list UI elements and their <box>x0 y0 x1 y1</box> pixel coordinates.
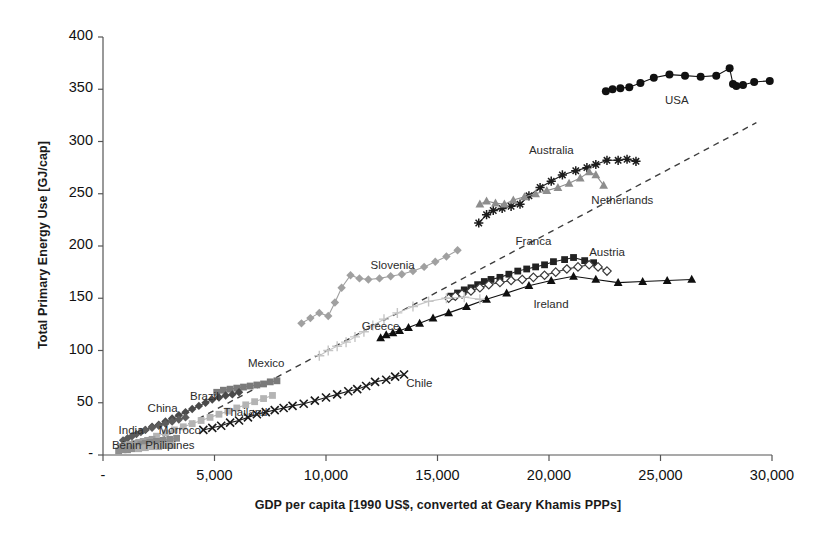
data-point <box>323 346 333 356</box>
data-point <box>240 384 247 391</box>
x-tick-label: 10,000 <box>281 467 371 483</box>
y-tick-label: 50 <box>41 393 93 409</box>
series-annotation: Philipines <box>145 439 194 451</box>
data-point <box>331 298 339 306</box>
data-point <box>571 166 580 175</box>
y-tick-label: - <box>41 445 93 461</box>
data-point <box>766 77 774 85</box>
data-point <box>247 383 254 390</box>
data-point <box>603 267 611 275</box>
data-point <box>650 74 658 82</box>
data-point <box>355 274 363 282</box>
x-tick-label: 5,000 <box>170 467 260 483</box>
data-point <box>362 382 370 390</box>
x-axis-title: GDP per capita [1990 US$, converted at G… <box>103 498 773 512</box>
data-point <box>364 275 372 283</box>
data-point <box>687 275 696 283</box>
series-annotation: India <box>119 424 144 436</box>
data-point <box>344 387 352 395</box>
y-tick-label: 150 <box>41 288 93 304</box>
y-tick-label: 100 <box>41 341 93 357</box>
data-point <box>574 263 582 271</box>
data-point <box>614 156 623 165</box>
data-point <box>732 82 740 90</box>
data-point <box>398 270 406 278</box>
data-point <box>558 170 567 179</box>
data-point <box>269 392 276 399</box>
series-annotation: Ireland <box>533 298 568 310</box>
data-point <box>570 254 577 261</box>
data-point <box>563 265 571 273</box>
data-point <box>532 264 539 271</box>
y-tick-label: 350 <box>41 79 93 95</box>
data-point <box>547 177 556 186</box>
series-annotation: Mexico <box>248 357 284 369</box>
x-tick-label: 15,000 <box>393 467 483 483</box>
data-point <box>551 268 559 276</box>
data-point <box>267 378 274 385</box>
data-point <box>665 71 673 79</box>
x-tick-label: - <box>58 467 148 483</box>
data-point <box>260 395 267 402</box>
data-point <box>442 252 450 260</box>
data-point <box>217 422 225 430</box>
data-point <box>541 261 548 268</box>
data-point <box>207 414 214 421</box>
data-point <box>431 257 439 265</box>
data-point <box>337 284 345 292</box>
series-annotation: Brazil <box>190 390 219 402</box>
data-point <box>453 246 461 254</box>
data-point <box>631 157 640 166</box>
data-point <box>739 81 747 89</box>
y-tick-label: 200 <box>41 236 93 252</box>
series-annotation: China <box>148 402 178 414</box>
data-point <box>253 382 260 389</box>
data-point <box>260 381 267 388</box>
series-annotation: Australia <box>529 144 574 156</box>
data-point <box>482 196 491 204</box>
data-point <box>181 413 189 421</box>
data-point <box>750 78 758 86</box>
chart-figure: Total Primary Energy Use [GJ/cap] GDP pe… <box>0 0 828 544</box>
data-point <box>324 312 332 320</box>
data-point <box>712 72 720 80</box>
data-point <box>415 319 424 327</box>
data-point <box>332 341 342 351</box>
data-point <box>489 206 498 215</box>
data-point <box>540 271 548 279</box>
data-point <box>391 373 399 381</box>
data-point <box>208 424 216 432</box>
series-annotation: Morroco <box>159 424 201 436</box>
data-point <box>333 390 341 398</box>
data-point <box>591 160 600 169</box>
data-point <box>616 84 624 92</box>
data-point <box>561 256 568 263</box>
series-annotation: Chile <box>406 377 432 389</box>
data-point <box>341 337 351 347</box>
data-point <box>726 64 734 72</box>
data-point <box>271 406 279 414</box>
y-tick-label: 400 <box>41 27 93 43</box>
data-point <box>565 179 574 187</box>
data-point <box>314 351 324 361</box>
series-annotation: Greece <box>362 320 400 332</box>
series-annotation: USA <box>665 94 689 106</box>
data-point <box>311 397 319 405</box>
data-point <box>353 385 361 393</box>
data-point <box>681 72 689 80</box>
data-point <box>609 85 617 93</box>
data-point <box>602 156 611 165</box>
data-point <box>306 314 314 322</box>
data-point <box>346 271 354 279</box>
series-annotation: Austria <box>589 246 625 258</box>
data-point <box>625 83 633 91</box>
y-tick-label: 300 <box>41 132 93 148</box>
data-point <box>420 263 428 271</box>
data-point <box>697 73 705 81</box>
data-point <box>297 319 305 327</box>
data-point <box>315 309 323 317</box>
x-tick-label: 30,000 <box>727 467 817 483</box>
x-tick-label: 25,000 <box>616 467 706 483</box>
data-point <box>198 417 205 424</box>
y-tick-label: 250 <box>41 184 93 200</box>
